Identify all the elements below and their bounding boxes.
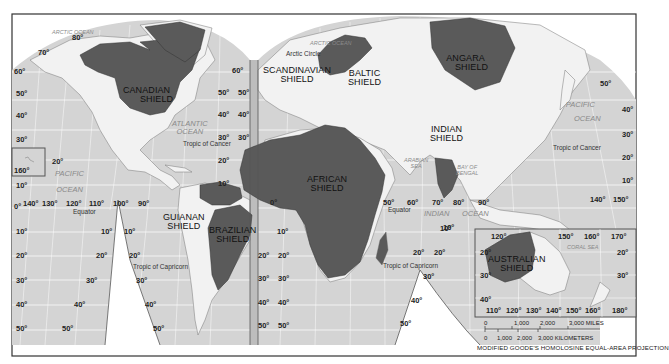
tropic-of-capricorn-east-label: Tropic of Capricorn	[383, 263, 438, 270]
lon-label: 110°	[89, 200, 104, 208]
lat-label: 0°	[270, 199, 277, 207]
lat-label: 30°	[423, 273, 434, 281]
arctic-ocean-east-label: ARCTIC OCEAN	[310, 41, 352, 47]
lon-label: 180°	[612, 307, 628, 315]
lat-label: 10°	[16, 182, 27, 190]
brazilian-shield-label: BRAZILIANSHIELD	[209, 226, 256, 244]
lat-label: 20°	[278, 252, 289, 260]
lat-label: 40°	[258, 299, 269, 307]
lat-label: 10°	[277, 228, 288, 236]
shield-label-line: SHIELD	[209, 235, 256, 244]
baltic-shield-label: BALTICSHIELD	[348, 69, 381, 87]
shield-label-line: SHIELD	[348, 78, 381, 87]
lon-label: 160°	[14, 167, 30, 175]
lon-label: 170°	[611, 233, 627, 241]
indian-ocean-label-1: INDIAN	[424, 210, 449, 218]
lat-label: 20°	[16, 252, 27, 260]
arabian-sea-label: ARABIANSEA	[404, 158, 428, 169]
lat-label: 30°	[218, 134, 229, 142]
lat-label: 10°	[218, 180, 229, 188]
pacific-ocean-east-label: PACIFICOCEAN	[560, 101, 601, 122]
lon-label: 90°	[478, 199, 489, 207]
shield-label-line: SHIELD	[455, 63, 488, 72]
lat-label: 40°	[411, 297, 422, 305]
lon-label: 120°	[491, 233, 507, 241]
lat-label: 0°	[14, 203, 21, 211]
lon-label: 140°	[590, 196, 606, 204]
lat-label: 40°	[145, 301, 156, 309]
lat-label: 30°	[16, 277, 27, 285]
lat-label: 30°	[617, 272, 628, 280]
tropic-of-cancer-east-label: Tropic of Cancer	[553, 145, 601, 152]
bay-of-bengal-label: BAY OFBENGAL	[456, 165, 478, 176]
lat-label: 50°	[400, 320, 411, 328]
lon-label: 130°	[526, 307, 542, 315]
lat-label: 20°	[258, 252, 269, 260]
shield-label-line: SHIELD	[140, 95, 173, 104]
scale-label: 3,000 KILOMETERS	[538, 335, 593, 341]
ocean-label-line: OCEAN	[172, 128, 208, 136]
lat-label: 70°	[38, 49, 49, 57]
coral-sea-label: CORAL SEA	[567, 245, 598, 251]
lon-label: 80°	[453, 199, 464, 207]
lon-label: 160°	[585, 307, 601, 315]
lon-label: 150°	[566, 307, 582, 315]
lat-label: 20°	[96, 252, 107, 260]
lon-label: 140°	[23, 200, 39, 208]
lat-label: 30°	[86, 277, 97, 285]
pacific-ocean-west-label: PACIFICOCEAN	[55, 170, 84, 193]
lat-label: 10°	[622, 177, 633, 185]
arctic-circle-label: Arctic Circle	[286, 51, 321, 58]
scale-label: 1,000	[497, 335, 512, 341]
lat-label: 30°	[16, 136, 27, 144]
lat-label: 20°	[480, 249, 491, 257]
lon-label: 150°	[613, 196, 629, 204]
lat-label: 20°	[617, 249, 628, 257]
ocean-label-line: OCEAN	[574, 115, 601, 123]
lon-label: 60°	[407, 199, 418, 207]
scale-label: 0	[484, 320, 487, 326]
lat-label: 30°	[258, 275, 269, 283]
lat-label: 30°	[238, 134, 249, 142]
ocean-label-line: SEA	[404, 164, 428, 170]
lat-label: 20°	[129, 252, 140, 260]
lat-label: 50°	[62, 325, 73, 333]
lon-label: 50°	[383, 199, 394, 207]
lat-label: 20°	[52, 158, 63, 166]
lat-label: 80°	[72, 34, 83, 42]
ocean-label-line: PACIFIC	[55, 170, 84, 178]
ocean-label-line: BENGAL	[456, 171, 478, 177]
lat-label: 10°	[16, 228, 27, 236]
lat-label: 40°	[480, 296, 491, 304]
shield-label-line: SHIELD	[163, 222, 205, 231]
lat-label: 50°	[153, 325, 164, 333]
lon-label: 140°	[546, 307, 562, 315]
equator-east-label: Equator	[388, 207, 411, 214]
lon-label: 110°	[486, 307, 501, 315]
lat-label: 40°	[622, 106, 633, 114]
lat-label: 40°	[16, 112, 27, 120]
lat-label: 10°	[101, 228, 112, 236]
lat-label: 40°	[218, 111, 229, 119]
scale-label: 2,000	[517, 335, 532, 341]
scale-label: 2,000	[540, 320, 555, 326]
lat-label: 60°	[14, 68, 25, 76]
lat-label: 40°	[278, 299, 289, 307]
shield-label-line: SHIELD	[430, 134, 463, 143]
tropic-of-capricorn-west-label: Tropic of Capricorn	[133, 264, 188, 271]
indian-shield-label: INDIANSHIELD	[430, 125, 463, 143]
lat-label: 30°	[622, 131, 633, 139]
scale-label: 3,000 MILES	[569, 320, 604, 326]
lat-label: 20°	[622, 154, 633, 162]
african-shield-label: AFRICANSHIELD	[307, 175, 347, 193]
lat-label: 50°	[238, 89, 249, 97]
lat-label: 20°	[218, 157, 229, 165]
lon-label: 130°	[42, 200, 58, 208]
lat-label: 50°	[16, 325, 27, 333]
lat-label: 50°	[258, 322, 269, 330]
equator-west-label: Equator	[73, 209, 96, 216]
lat-label: 50°	[218, 89, 229, 97]
atlantic-ocean-label: ATLANTICOCEAN	[172, 120, 208, 135]
lon-label: 100°	[113, 200, 129, 208]
